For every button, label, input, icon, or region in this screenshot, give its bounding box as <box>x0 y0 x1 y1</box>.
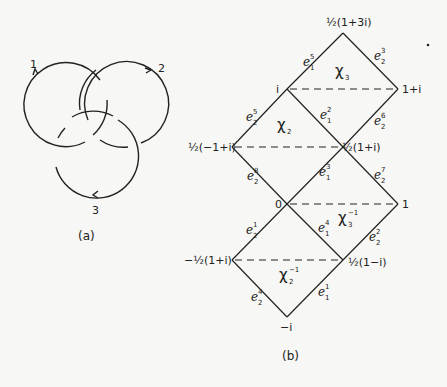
svg-text:2: 2 <box>376 228 380 236</box>
edge-label-e2-8: e 8 2 <box>247 167 258 186</box>
edge-label-e2-4: e 4 2 <box>251 288 263 307</box>
arrow-ring-3-icon <box>93 191 98 198</box>
edge-top-left <box>287 33 343 89</box>
svg-text:χ: χ <box>338 209 347 227</box>
ring-1 <box>24 63 100 147</box>
ring-3-arc-b <box>56 120 139 198</box>
figure-b-caption: (b) <box>282 349 299 363</box>
svg-text:χ: χ <box>335 62 344 80</box>
region-label-chi2-inverse: χ 2 −1 <box>279 266 299 286</box>
svg-text:3: 3 <box>345 74 349 82</box>
svg-text:1: 1 <box>325 283 329 291</box>
svg-text:2: 2 <box>253 119 257 127</box>
ring-3-label: 3 <box>92 204 99 217</box>
svg-text:1: 1 <box>253 221 257 229</box>
vertex-label-i: i <box>276 83 279 96</box>
edge-label-e2-2: e 2 2 <box>369 228 380 247</box>
svg-text:6: 6 <box>381 112 386 120</box>
ring-1-label: 1 <box>30 58 37 71</box>
stray-dot <box>427 44 430 47</box>
vertex-label-half-1-minus-i: ½(1−i) <box>348 256 387 269</box>
region-labels: χ 3 χ 2 χ 3 −1 χ 2 −1 <box>277 62 358 286</box>
svg-text:2: 2 <box>381 123 385 131</box>
svg-text:χ: χ <box>277 116 286 134</box>
edge-label-e2-5: e 5 2 <box>246 108 257 127</box>
region-label-chi2: χ 2 <box>277 116 291 136</box>
region-label-chi3-inverse: χ 3 −1 <box>338 209 358 229</box>
svg-text:1: 1 <box>327 117 331 125</box>
edge-label-e1-3: e 3 1 <box>319 163 330 182</box>
edge-label-e2-3: e 3 2 <box>374 47 385 66</box>
svg-text:2: 2 <box>254 178 258 186</box>
figure-a-caption: (a) <box>78 229 95 243</box>
ring-2-arc-b <box>100 140 128 147</box>
vertex-label-zero: 0 <box>275 198 282 211</box>
edge-zero-mid <box>287 204 343 260</box>
region-label-chi3: χ 3 <box>335 62 349 82</box>
svg-text:8: 8 <box>254 167 258 175</box>
ring-1-arc-b <box>93 100 107 135</box>
svg-text:−1: −1 <box>348 209 358 217</box>
edge-top-right <box>343 33 398 89</box>
svg-text:2: 2 <box>381 58 385 66</box>
svg-text:2: 2 <box>287 128 291 136</box>
edge-label-e2-6: e 6 2 <box>374 112 386 131</box>
vertex-label-half-1-plus-i: ½(1+i) <box>342 141 381 154</box>
edge-label-e2-7: e 7 2 <box>374 166 385 185</box>
edge-1i-mid <box>343 89 398 147</box>
svg-text:2: 2 <box>289 278 293 286</box>
svg-text:3: 3 <box>326 163 330 171</box>
ring-2-label: 2 <box>158 62 165 75</box>
edge-label-e1-4: e 4 1 <box>318 219 330 238</box>
svg-text:4: 4 <box>258 288 263 296</box>
vertex-label-neg-i: −i <box>280 321 292 334</box>
edge-zero-left <box>232 204 287 260</box>
svg-text:2: 2 <box>327 106 331 114</box>
edge-i-mid <box>287 89 343 147</box>
svg-text:5: 5 <box>253 108 257 116</box>
ring-3-arc-c <box>58 128 65 138</box>
ring-2-arc-c <box>79 70 96 110</box>
svg-text:4: 4 <box>325 219 330 227</box>
vertex-label-neg-half-1-plus-i: −½(1+i) <box>184 254 232 267</box>
svg-text:χ: χ <box>279 266 288 284</box>
edge-label-e2-1: e 1 2 <box>246 221 257 240</box>
vertex-label-half-neg1-plus-i: ½(−1+i) <box>188 141 236 154</box>
svg-text:2: 2 <box>381 177 385 185</box>
svg-text:2: 2 <box>258 299 262 307</box>
diagram-canvas: 1 2 3 (a) ½(1+3i) i 1+i ½(−1+i) ½(1+i) 0… <box>0 0 447 387</box>
edge-left-zero <box>232 147 287 204</box>
edge-mid-zero <box>287 147 343 204</box>
svg-text:1: 1 <box>325 230 329 238</box>
svg-text:−1: −1 <box>289 266 299 274</box>
vertex-label-top: ½(1+3i) <box>326 16 372 29</box>
svg-text:1: 1 <box>310 64 314 72</box>
svg-text:2: 2 <box>376 239 380 247</box>
svg-text:1: 1 <box>325 294 329 302</box>
svg-text:5: 5 <box>310 53 314 61</box>
figure-a-borromean-rings <box>24 62 169 199</box>
vertex-label-one: 1 <box>402 198 409 211</box>
svg-text:2: 2 <box>253 232 257 240</box>
svg-text:7: 7 <box>381 166 385 174</box>
edge-label-e1-2: e 2 1 <box>320 106 331 125</box>
edge-label-e1-1: e 1 1 <box>318 283 329 302</box>
edge-mid-one <box>343 147 398 204</box>
svg-text:3: 3 <box>381 47 385 55</box>
svg-text:3: 3 <box>348 221 352 229</box>
vertex-label-1-plus-i: 1+i <box>402 83 421 96</box>
svg-text:1: 1 <box>326 174 330 182</box>
